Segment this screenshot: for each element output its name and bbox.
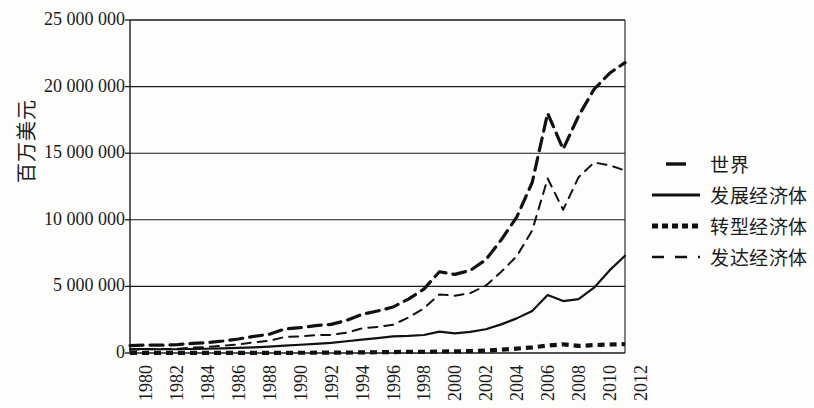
x-tick-label: 1990 [292,365,310,401]
chart-legend: 世界发展经济体转型经济体发达经济体 [650,148,814,272]
legend-item: 发展经济体 [650,179,814,210]
x-tick-label: 1988 [261,365,279,401]
legend-key-4-icon [650,248,702,266]
legend-key-1-icon [650,155,702,173]
x-tick-label: 2012 [632,365,650,401]
x-tick-label: 1982 [168,365,186,401]
legend-label: 转型经济体 [710,212,808,239]
legend-key-3-icon [650,217,702,235]
x-tick-label: 1996 [385,365,403,401]
legend-label: 发展经济体 [710,181,808,208]
x-tick-label: 1980 [137,365,155,401]
x-tick-label: 2010 [601,365,619,401]
x-tick-label: 2000 [446,365,464,401]
x-tick-label: 2002 [477,365,495,401]
legend-label: 世界 [710,150,749,177]
x-tick-label: 1984 [199,365,217,401]
x-tick-label: 1992 [323,365,341,401]
x-tick-label: 2008 [570,365,588,401]
x-tick-label: 1986 [230,365,248,401]
legend-label: 发达经济体 [710,243,808,270]
legend-item: 发达经济体 [650,241,814,272]
legend-key-2-icon [650,186,702,204]
x-tick-label: 2006 [539,365,557,401]
legend-item: 世界 [650,148,814,179]
x-tick-label: 1994 [354,365,372,401]
x-tick-label: 1998 [415,365,433,401]
chart-figure: 百万美元 25 000 00020 000 00015 000 00010 00… [0,0,814,408]
legend-item: 转型经济体 [650,210,814,241]
x-tick-label: 2004 [508,365,526,401]
